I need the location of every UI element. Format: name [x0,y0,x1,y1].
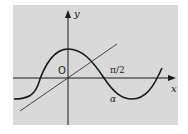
graph-figure: y x O π/2 α [0,0,188,134]
pi-half-label: π/2 [110,65,125,75]
origin-label: O [58,65,66,76]
alpha-label: α [110,94,116,104]
y-axis-label: y [73,8,80,19]
graph-svg: y x O π/2 α [0,0,188,134]
x-axis-label: x [171,83,177,94]
